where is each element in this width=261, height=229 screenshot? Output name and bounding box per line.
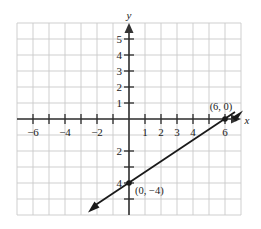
point-label-x-intercept: (6, 0) (210, 101, 233, 113)
coordinate-plane-figure: −6 −4 −2 1 2 3 4 6 5 4 3 2 1 2 4 (0, −4)… (0, 0, 261, 229)
y-tick-label-2: 2 (117, 81, 123, 93)
y-tick-label-neg2: 2 (117, 145, 123, 157)
point-marker-y-intercept (126, 180, 132, 186)
x-tick-label-neg4: −4 (59, 126, 71, 138)
x-tick-label-6: 6 (222, 126, 228, 138)
y-tick-label-3: 3 (117, 65, 123, 77)
x-tick-label-neg6: −6 (27, 126, 39, 138)
point-label-y-intercept: (0, −4) (135, 185, 164, 197)
y-axis-label: y (126, 9, 132, 21)
x-tick-label-4: 4 (190, 126, 196, 138)
point-marker-x-intercept (222, 116, 228, 122)
x-axis-label: x (244, 114, 250, 126)
x-tick-label-1: 1 (142, 126, 148, 138)
y-tick-label-5: 5 (117, 33, 123, 45)
x-tick-label-neg2: −2 (91, 126, 103, 138)
y-tick-label-4: 4 (117, 49, 123, 61)
x-tick-label-3: 3 (174, 126, 180, 138)
figure-container: −6 −4 −2 1 2 3 4 6 5 4 3 2 1 2 4 (0, −4)… (0, 0, 261, 229)
x-tick-label-2: 2 (158, 126, 164, 138)
y-axis-arrow-icon (125, 23, 134, 33)
plotted-line (88, 111, 243, 213)
y-tick-label-1: 1 (117, 97, 123, 109)
